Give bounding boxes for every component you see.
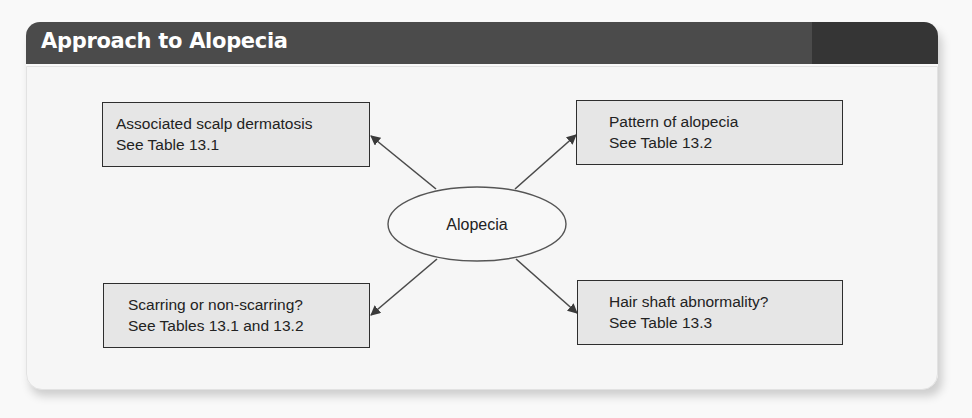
node-reference: See Table 13.3 [609, 312, 842, 333]
flow-diagram: Alopecia [0, 0, 972, 418]
node-reference: See Tables 13.1 and 13.2 [128, 315, 369, 336]
node-hair-shaft-abnormality: Hair shaft abnormality? See Table 13.3 [577, 280, 843, 345]
center-node-label: Alopecia [446, 216, 507, 233]
node-reference: See Table 13.1 [116, 134, 369, 155]
node-associated-scalp-dermatosis: Associated scalp dermatosis See Table 13… [102, 102, 370, 167]
arrow-to-top-right [515, 135, 576, 189]
node-title: Scarring or non-scarring? [128, 294, 369, 315]
node-title: Pattern of alopecia [609, 111, 842, 132]
arrow-to-top-left [371, 136, 436, 189]
node-title: Hair shaft abnormality? [609, 291, 842, 312]
node-scarring-or-non-scarring: Scarring or non-scarring? See Tables 13.… [103, 283, 370, 348]
arrow-to-bottom-left [371, 259, 437, 315]
node-title: Associated scalp dermatosis [116, 113, 369, 134]
node-pattern-of-alopecia: Pattern of alopecia See Table 13.2 [576, 100, 843, 165]
node-reference: See Table 13.2 [609, 132, 842, 153]
arrow-to-bottom-right [516, 259, 577, 313]
